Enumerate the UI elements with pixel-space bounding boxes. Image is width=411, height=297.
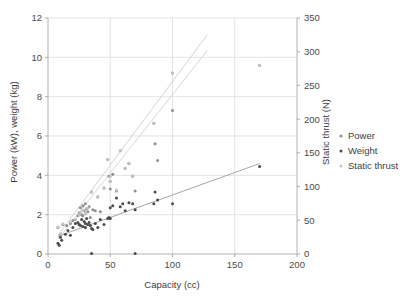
data-point <box>124 167 127 170</box>
data-point <box>84 212 87 215</box>
series-power <box>56 64 261 236</box>
data-point <box>111 173 114 176</box>
data-point <box>258 64 261 67</box>
data-point <box>134 208 137 211</box>
y-tick-label: 8 <box>37 91 42 102</box>
data-point <box>156 159 159 162</box>
data-point <box>86 207 89 210</box>
chart-figure: 0246810120501001502002503003500501001502… <box>0 0 411 297</box>
data-point <box>156 198 159 201</box>
data-point <box>59 236 62 239</box>
data-points <box>56 64 261 255</box>
data-point <box>121 202 124 205</box>
data-point <box>109 206 112 209</box>
data-point <box>78 213 81 216</box>
data-point <box>89 216 92 219</box>
tick-labels: 0246810120501001502002503003500501001502… <box>31 12 319 270</box>
data-point <box>258 165 261 168</box>
data-point <box>154 142 157 145</box>
y2-tick-label: 50 <box>304 215 315 226</box>
y2-axis-title: Static thrust (N) <box>320 99 331 165</box>
data-point <box>84 202 87 205</box>
data-point <box>94 222 97 225</box>
data-point <box>66 229 69 232</box>
data-point <box>90 252 93 255</box>
x-axis-title: Capacity (cc) <box>144 279 199 290</box>
data-point <box>152 122 155 125</box>
data-point <box>109 217 112 220</box>
y-tick-label: 10 <box>31 52 42 63</box>
data-point <box>119 205 122 208</box>
data-point <box>115 196 118 199</box>
data-point <box>90 190 93 193</box>
data-point <box>119 149 122 152</box>
data-point <box>111 204 114 207</box>
y2-tick-label: 200 <box>304 114 320 125</box>
data-point <box>96 195 99 198</box>
data-point <box>86 210 89 213</box>
data-point <box>109 180 112 183</box>
legend: PowerWeightStatic thrust <box>340 130 399 171</box>
data-point <box>131 202 134 205</box>
data-point <box>106 158 109 161</box>
y2-tick-label: 300 <box>304 46 320 57</box>
data-point <box>80 218 83 221</box>
y2-tick-label: 100 <box>304 181 320 192</box>
data-point <box>109 188 112 191</box>
data-point <box>99 210 102 213</box>
data-point <box>84 226 87 229</box>
y2-tick-label: 250 <box>304 80 320 91</box>
data-point <box>64 233 67 236</box>
data-point <box>60 239 63 242</box>
data-point <box>89 224 92 227</box>
data-point <box>103 223 106 226</box>
data-point <box>171 72 174 75</box>
data-point <box>91 228 94 231</box>
data-point <box>127 201 130 204</box>
legend-marker <box>340 135 343 138</box>
y2-tick-label: 350 <box>304 12 320 23</box>
y-tick-label: 4 <box>37 170 42 181</box>
data-point <box>134 190 137 193</box>
data-point <box>71 226 74 229</box>
data-point <box>171 109 174 112</box>
data-point <box>69 234 72 237</box>
y2-tick-label: 150 <box>304 147 320 158</box>
x-tick-label: 100 <box>165 259 181 270</box>
y-tick-label: 6 <box>37 130 42 141</box>
data-point <box>99 218 102 221</box>
legend-label: Power <box>348 130 375 141</box>
legend-marker <box>340 165 343 168</box>
data-point <box>61 222 64 225</box>
x-tick-label: 50 <box>105 259 116 270</box>
y-axis-title: Power (kW), weight (kg) <box>8 81 19 182</box>
data-point <box>171 202 174 205</box>
data-point <box>74 217 77 220</box>
y2-tick-label: 0 <box>304 248 309 259</box>
scatter-plot: 0246810120501001502002503003500501001502… <box>0 0 411 297</box>
data-point <box>81 214 84 217</box>
data-point <box>124 209 127 212</box>
x-tick-label: 0 <box>45 259 50 270</box>
data-point <box>79 206 82 209</box>
data-point <box>96 226 99 229</box>
x-tick-label: 200 <box>289 259 305 270</box>
y-tick-label: 12 <box>31 12 42 23</box>
data-point <box>56 226 59 229</box>
data-point <box>115 188 118 191</box>
legend-label: Static thrust <box>348 160 399 171</box>
data-point <box>59 232 62 235</box>
legend-marker <box>340 150 343 153</box>
data-point <box>131 174 134 177</box>
data-point <box>134 252 137 255</box>
data-point <box>85 217 88 220</box>
x-tick-label: 150 <box>227 259 243 270</box>
data-point <box>81 209 84 212</box>
legend-label: Weight <box>348 145 378 156</box>
data-point <box>103 186 106 189</box>
data-point <box>88 221 91 224</box>
data-point <box>94 209 97 212</box>
data-point <box>79 211 82 214</box>
data-point <box>65 224 68 227</box>
y-tick-label: 0 <box>37 248 42 259</box>
